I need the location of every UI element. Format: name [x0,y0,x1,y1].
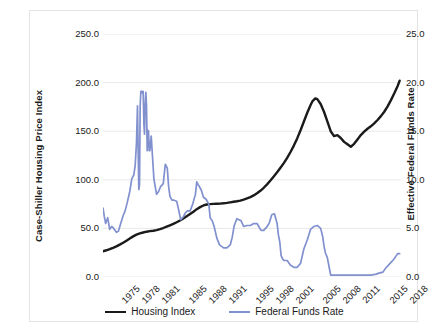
x-axis-tick-label: 1988 [206,283,229,306]
y-axis-left-tick-label: 200.0 [63,78,99,88]
chart-legend: Housing IndexFederal Funds Rate [30,306,419,317]
x-axis-tick-label: 2008 [340,283,363,306]
y-axis-left-tick-label: 100.0 [63,175,99,185]
x-axis-tick-label: 2015 [387,283,410,306]
x-axis-tick-label: 1978 [139,283,162,306]
legend-swatch-icon [229,311,250,313]
y-axis-right-tick-label: 25.0 [406,29,442,39]
y-axis-left-ticks: 0.050.0100.0150.0200.0250.0 [63,34,99,277]
gridlines [103,34,401,277]
x-axis-tick-label: 2011 [360,283,382,305]
y-axis-right-ticks: 0.05.010.015.020.025.0 [406,34,442,277]
x-axis-tick-label: 1985 [186,283,209,306]
x-axis-tick-label: 1991 [226,283,249,306]
y-axis-right-tick-label: 5.0 [406,223,442,233]
x-axis-tick-label: 1998 [273,283,296,306]
x-axis-tick-label: 1995 [253,283,276,306]
x-axis-tick-label: 2018 [407,283,430,306]
legend-label: Housing Index [131,306,195,317]
y-axis-title-left: Case-Shiller Housing Price Index [33,66,44,266]
y-axis-right-tick-label: 20.0 [406,78,442,88]
y-axis-left-tick-label: 0.0 [63,272,99,282]
plot-area [103,34,401,277]
legend-swatch-icon [105,311,126,313]
y-axis-left-tick-label: 150.0 [63,126,99,136]
legend-item: Housing Index [105,306,195,317]
y-axis-right-tick-label: 15.0 [406,126,442,136]
x-axis-tick-label: 2005 [320,283,343,306]
x-axis-tick-label: 1981 [159,283,182,306]
series-line-federal-funds-rate [103,91,400,275]
y-axis-right-tick-label: 10.0 [406,175,442,185]
y-axis-right-tick-label: 0.0 [406,272,442,282]
series-lines [103,81,400,275]
x-axis-tick-label: 1975 [119,283,142,306]
chart-plot-svg [103,34,401,277]
chart-container: Case-Shiller Housing Price Index Effecti… [29,10,418,322]
legend-item: Federal Funds Rate [229,306,343,317]
x-axis-tick-label: 2001 [293,283,316,306]
y-axis-left-tick-label: 250.0 [63,29,99,39]
y-axis-left-tick-label: 50.0 [63,223,99,233]
legend-label: Federal Funds Rate [255,306,343,317]
